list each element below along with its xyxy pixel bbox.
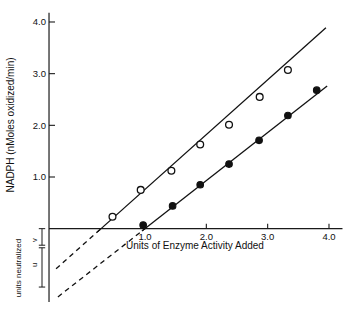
y-tick-label: 4.0 [33, 16, 46, 27]
fit-lines [97, 28, 327, 232]
extrapolation-open-circles [56, 228, 102, 269]
x-axis-title: Units of Enzyme Activity Added [126, 240, 264, 251]
bracket-segment-v-label: v [30, 238, 39, 242]
data-point-open-circles [284, 67, 291, 74]
extrapolation-lines [56, 228, 146, 297]
data-point-open-circles [168, 167, 175, 174]
data-point-open-circles [197, 141, 204, 148]
y-axis-title: NADPH (nMoles oxidized/min) [5, 57, 16, 192]
data-point-filled-circles [140, 222, 147, 229]
fit-line-filled-circles [142, 86, 327, 231]
data-point-open-circles [226, 121, 233, 128]
data-point-open-circles [137, 187, 144, 194]
data-point-filled-circles [256, 137, 263, 144]
data-point-filled-circles [313, 87, 320, 94]
data-point-filled-circles [285, 112, 292, 119]
extrapolation-filled-circles [58, 228, 146, 297]
scatter-plot-svg: 1.02.03.04.01.02.03.04.0 Units of Enzyme… [0, 0, 348, 313]
data-point-open-circles [256, 94, 263, 101]
data-point-filled-circles [197, 181, 204, 188]
bracket-title-label: units neutralized [14, 239, 23, 297]
fit-line-open-circles [97, 28, 326, 232]
y-tick-label: 3.0 [33, 68, 46, 79]
axes [49, 13, 342, 302]
units-neutralized-bracket [39, 229, 45, 287]
y-tick-label: 2.0 [33, 120, 46, 131]
bracket-segment-u-label: u [30, 263, 39, 267]
tick-labels: 1.02.03.04.01.02.03.04.0 [33, 16, 336, 242]
y-tick-label: 1.0 [33, 171, 46, 182]
data-points [109, 67, 320, 229]
data-point-filled-circles [226, 161, 233, 168]
chart-figure: 1.02.03.04.01.02.03.04.0 Units of Enzyme… [0, 0, 348, 313]
x-tick-label: 4.0 [322, 231, 335, 242]
data-point-open-circles [109, 213, 116, 220]
data-point-filled-circles [169, 203, 176, 210]
